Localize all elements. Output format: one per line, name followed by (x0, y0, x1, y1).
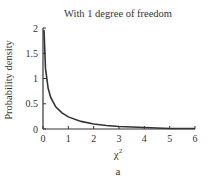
y-axis-label: Probability density (3, 39, 14, 119)
panel-label: a (116, 165, 121, 177)
x-tick-label: 6 (193, 133, 198, 144)
x-tick-label: 5 (167, 133, 172, 144)
y-tick-label: 0.5 (26, 98, 39, 109)
axes (43, 28, 195, 129)
x-tick-label: 3 (117, 133, 122, 144)
y-tick-label: 1.5 (26, 48, 39, 59)
y-tick-label: 1 (33, 73, 38, 84)
y-tick-label: 2 (33, 23, 38, 34)
chart: With 1 degree of freedom Probability den… (0, 0, 208, 184)
x-tick-label: 2 (91, 133, 96, 144)
x-axis-label: χ2 (113, 147, 123, 160)
y-tick-label: 0 (33, 124, 38, 135)
x-tick-label: 0 (41, 133, 46, 144)
svg-text:Probability density: Probability density (3, 39, 14, 119)
x-tick-label: 4 (142, 133, 147, 144)
x-tick-label: 1 (66, 133, 71, 144)
chart-title: With 1 degree of freedom (64, 8, 172, 19)
data-line (44, 30, 195, 129)
